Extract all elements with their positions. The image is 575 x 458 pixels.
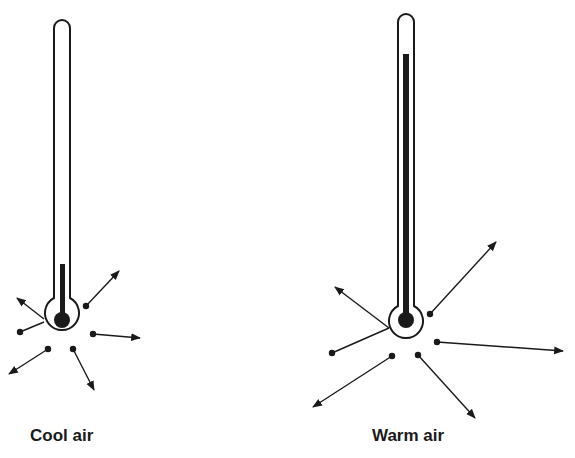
- warm-molecules: [313, 242, 563, 418]
- warm-bulb: [398, 312, 414, 328]
- cool-bulb: [54, 312, 70, 328]
- warm-liquid-column: [403, 54, 409, 316]
- warm-air-label: Warm air: [372, 426, 444, 446]
- cool-air-label: Cool air: [30, 426, 93, 446]
- cool-thermometer: [45, 20, 79, 330]
- cool-liquid-column: [60, 264, 65, 314]
- diagram-canvas: [0, 0, 575, 458]
- cool-molecules: [9, 271, 140, 390]
- warm-thermometer: [389, 14, 423, 338]
